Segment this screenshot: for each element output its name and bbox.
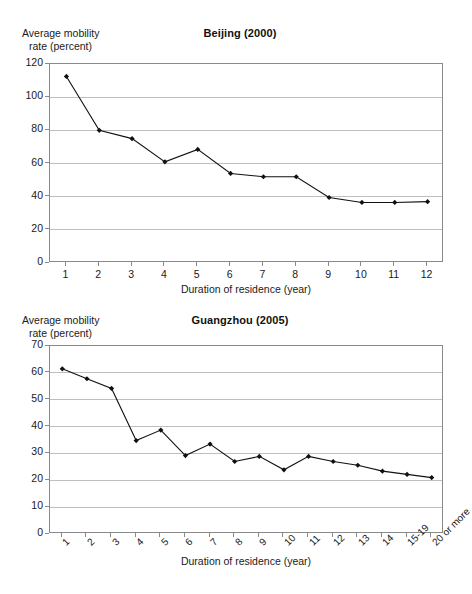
series-data-point [109, 386, 114, 391]
data-series [50, 346, 444, 534]
chart-beijing: Average mobility rate (percent) Beijing … [0, 0, 466, 300]
x-tick-label: 1 [60, 536, 72, 548]
x-tick-label: 8 [233, 536, 245, 548]
x-tick-mark [110, 533, 111, 537]
x-tick-mark [332, 533, 333, 537]
x-tick-mark [295, 262, 296, 266]
x-tick-label: 7 [208, 536, 220, 548]
series-data-point [355, 463, 360, 468]
y-axis-label-line2: rate (percent) [22, 40, 99, 53]
series-data-point [257, 454, 262, 459]
y-tick-label: 80 [5, 122, 43, 134]
chart-title-beijing: Beijing (2000) [160, 27, 320, 39]
y-tick-label: 60 [5, 365, 43, 377]
y-axis-label-beijing: Average mobility rate (percent) [22, 27, 99, 53]
plot-area-beijing [49, 63, 443, 262]
x-tick-mark [262, 262, 263, 266]
x-tick-label: 4 [134, 536, 146, 548]
y-tick-mark [45, 345, 49, 346]
y-axis-label-line1: Average mobility [22, 27, 99, 39]
series-data-point [294, 174, 299, 179]
x-axis-label-guangzhou: Duration of residence (year) [49, 555, 443, 567]
x-tick-label: 9 [257, 536, 269, 548]
y-tick-mark [45, 533, 49, 534]
series-data-point [326, 195, 331, 200]
series-data-point [425, 199, 430, 204]
x-tick-label: 12 [407, 268, 447, 280]
y-tick-mark [45, 425, 49, 426]
y-tick-label: 50 [5, 392, 43, 404]
series-line [66, 76, 427, 202]
y-tick-label: 20 [5, 222, 43, 234]
y-tick-mark [45, 398, 49, 399]
y-tick-label: 60 [5, 156, 43, 168]
y-tick-mark [45, 262, 49, 263]
x-tick-mark [233, 533, 234, 537]
y-tick-label: 40 [5, 419, 43, 431]
y-tick-label: 100 [5, 89, 43, 101]
x-tick-label: 13 [356, 532, 372, 548]
x-tick-mark [406, 533, 407, 537]
x-tick-mark [209, 533, 210, 537]
x-tick-mark [135, 533, 136, 537]
series-data-point [359, 200, 364, 205]
x-tick-mark [159, 533, 160, 537]
series-data-point [404, 472, 409, 477]
y-tick-label: 10 [5, 499, 43, 511]
y-tick-mark [45, 228, 49, 229]
series-data-point [97, 128, 102, 133]
y-tick-mark [45, 63, 49, 64]
x-tick-mark [98, 262, 99, 266]
y-tick-label: 20 [5, 472, 43, 484]
y-tick-mark [45, 162, 49, 163]
x-tick-mark [196, 262, 197, 266]
x-tick-mark [282, 533, 283, 537]
y-tick-label: 30 [5, 445, 43, 457]
series-data-point [134, 438, 139, 443]
y-tick-mark [45, 371, 49, 372]
x-tick-mark [393, 262, 394, 266]
y-axis-label-line1: Average mobility [22, 314, 99, 326]
x-tick-label: 12 [331, 532, 347, 548]
x-tick-mark [426, 262, 427, 266]
x-tick-label: 10 [282, 532, 298, 548]
y-tick-label: 0 [5, 526, 43, 538]
y-tick-label: 120 [5, 56, 43, 68]
x-tick-mark [360, 262, 361, 266]
series-data-point [429, 475, 434, 480]
x-axis-label-beijing: Duration of residence (year) [49, 283, 443, 295]
y-tick-mark [45, 506, 49, 507]
x-tick-mark [307, 533, 308, 537]
series-data-point [380, 469, 385, 474]
x-tick-label: 6 [183, 536, 195, 548]
series-data-point [261, 174, 266, 179]
data-series [50, 64, 444, 263]
chart-title-guangzhou: Guangzhou (2005) [150, 314, 330, 326]
y-tick-label: 70 [5, 338, 43, 350]
chart-guangzhou: Average mobility rate (percent) Guangzho… [0, 300, 466, 594]
y-tick-label: 40 [5, 189, 43, 201]
series-data-point [84, 376, 89, 381]
x-tick-mark [163, 262, 164, 266]
y-tick-mark [45, 195, 49, 196]
y-tick-mark [45, 96, 49, 97]
x-tick-mark [328, 262, 329, 266]
x-tick-mark [131, 262, 132, 266]
x-tick-label: 2 [85, 536, 97, 548]
x-tick-mark [85, 533, 86, 537]
y-tick-label: 0 [5, 255, 43, 267]
x-tick-label: 14 [380, 532, 396, 548]
y-tick-mark [45, 129, 49, 130]
y-tick-mark [45, 479, 49, 480]
x-tick-mark [65, 262, 66, 266]
x-tick-mark [229, 262, 230, 266]
y-tick-mark [45, 452, 49, 453]
series-data-point [281, 467, 286, 472]
y-axis-label-guangzhou: Average mobility rate (percent) [22, 314, 99, 340]
series-data-point [392, 200, 397, 205]
series-line [62, 369, 431, 478]
series-data-point [306, 454, 311, 459]
x-tick-label: 11 [307, 533, 322, 548]
series-data-point [64, 74, 69, 79]
series-data-point [60, 366, 65, 371]
